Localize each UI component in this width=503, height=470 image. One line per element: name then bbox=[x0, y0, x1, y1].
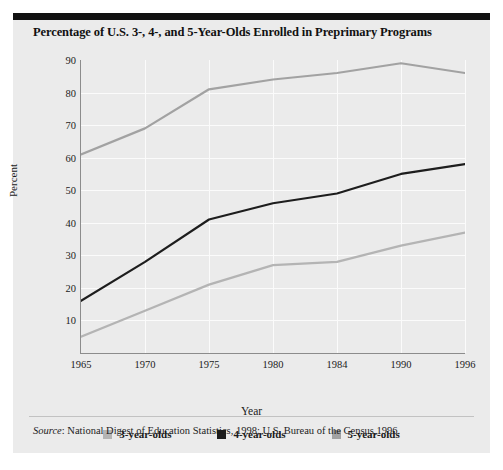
y-tick-label: 60 bbox=[18, 152, 76, 163]
y-tick-label: 10 bbox=[18, 315, 76, 326]
source-label: Source bbox=[33, 425, 62, 436]
plot-area bbox=[81, 60, 465, 353]
series-line-3-year-olds bbox=[81, 233, 465, 337]
source-body: : National Digest of Education Statistic… bbox=[62, 425, 400, 436]
x-axis-ticks: 1965197019751980198419901996 bbox=[81, 359, 465, 375]
x-tick-label: 1990 bbox=[371, 359, 431, 370]
y-tick-label: 80 bbox=[18, 87, 76, 98]
y-tick-label: 90 bbox=[18, 55, 76, 66]
x-tick-label: 1984 bbox=[307, 359, 367, 370]
x-tick-label: 1965 bbox=[51, 359, 111, 370]
title-rule bbox=[13, 13, 490, 20]
y-tick-label: 40 bbox=[18, 217, 76, 228]
series-line-4-year-olds bbox=[81, 164, 465, 301]
series-line-5-year-olds bbox=[81, 63, 465, 154]
figure-panel: Percentage of U.S. 3-, 4-, and 5-Year-Ol… bbox=[13, 13, 490, 453]
x-tick-label: 1970 bbox=[115, 359, 175, 370]
series-lines bbox=[81, 60, 465, 353]
plot-wrapper: Percent 102030405060708090 1965197019751… bbox=[13, 47, 490, 367]
y-tick-label: 20 bbox=[18, 282, 76, 293]
source-divider bbox=[29, 416, 474, 417]
gridline-vertical bbox=[465, 60, 466, 353]
x-tick-label: 1980 bbox=[243, 359, 303, 370]
source-note: Source: National Digest of Education Sta… bbox=[33, 425, 400, 436]
x-tick-label: 1975 bbox=[179, 359, 239, 370]
x-axis-line bbox=[80, 353, 465, 354]
y-tick-label: 50 bbox=[18, 185, 76, 196]
chart-title: Percentage of U.S. 3-, 4-, and 5-Year-Ol… bbox=[33, 25, 432, 40]
x-tick-label: 1996 bbox=[435, 359, 495, 370]
y-tick-label: 70 bbox=[18, 120, 76, 131]
y-tick-label: 30 bbox=[18, 250, 76, 261]
y-axis-ticks: 102030405060708090 bbox=[13, 60, 76, 353]
